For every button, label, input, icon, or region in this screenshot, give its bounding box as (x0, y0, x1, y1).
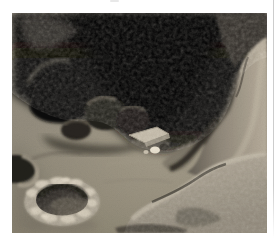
texture-overlay (12, 13, 267, 233)
page: Cave interior with excavated pit (0, 0, 276, 246)
page-edge-line (273, 0, 274, 238)
page-edge-mark (110, 0, 119, 2)
cave-photo: Cave interior with excavated pit (12, 13, 267, 233)
